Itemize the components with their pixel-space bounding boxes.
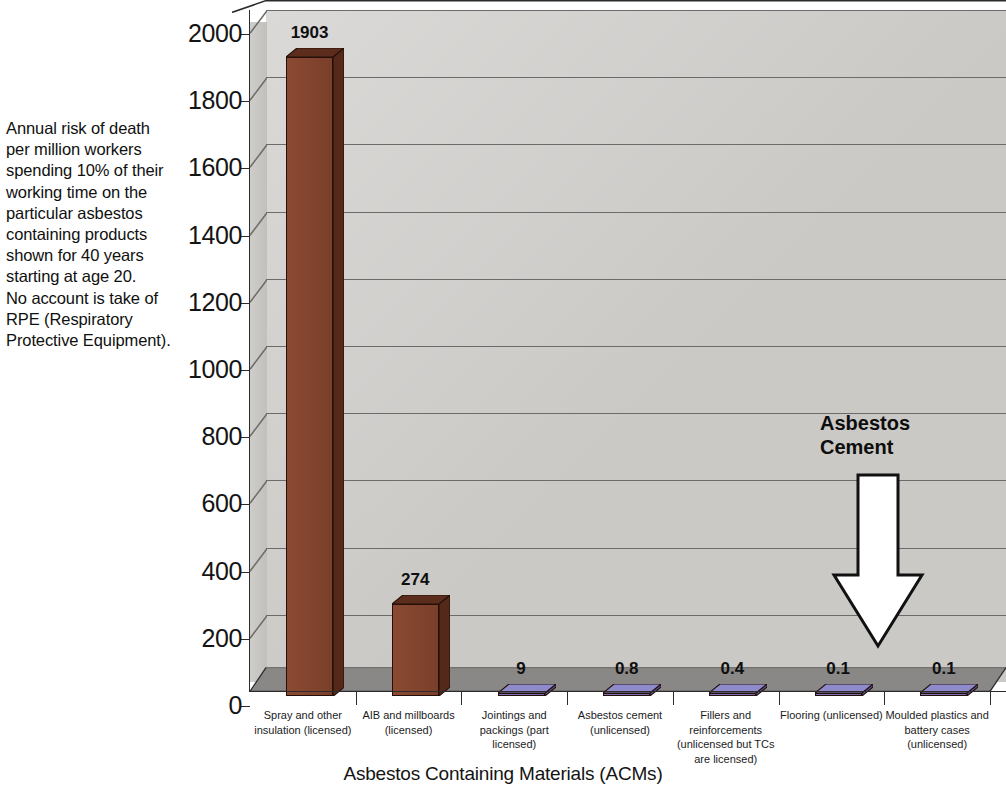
- y-axis-label: 1600: [188, 155, 242, 180]
- bar[interactable]: [392, 0, 439, 696]
- bar[interactable]: [603, 0, 650, 696]
- bar-front-face: [920, 693, 967, 696]
- y-axis-label: 0: [228, 693, 242, 718]
- bar-front-face: [392, 604, 439, 696]
- chart-3d-scene: 190327490.80.40.10.1 Asbestos Cement: [232, 0, 1006, 712]
- x-axis-tick: [779, 691, 780, 705]
- bar-value-label: 0.1: [899, 659, 989, 679]
- y-axis-label: 1800: [188, 88, 242, 113]
- bar-value-label: 0.4: [687, 659, 777, 679]
- bar-front-face: [498, 693, 545, 696]
- x-axis-category-label: AIB and millboards (licensed): [348, 708, 470, 737]
- bar[interactable]: [498, 0, 545, 696]
- bar[interactable]: [920, 0, 967, 696]
- x-axis-category-label: Spray and other insulation (licensed): [242, 708, 364, 737]
- bar-front-face: [709, 693, 756, 696]
- y-axis-label: 200: [201, 626, 242, 651]
- bar-value-label: 274: [370, 570, 460, 590]
- bar-value-label: 1903: [265, 23, 355, 43]
- x-axis-category-label: Moulded plastics and battery cases (unli…: [876, 708, 998, 752]
- y-axis-label: 1200: [188, 290, 242, 315]
- bar-front-face: [815, 693, 862, 696]
- y-axis-label: 600: [201, 491, 242, 516]
- bar-value-label: 9: [476, 659, 566, 679]
- bar[interactable]: [286, 0, 333, 696]
- x-axis-category-label: Jointings and packings (part licensed): [453, 708, 575, 752]
- down-arrow-icon: [830, 473, 926, 649]
- bar-top-face: [392, 595, 450, 604]
- x-axis-category-label: Fillers and reinforcements (unlicensed b…: [665, 708, 787, 766]
- y-axis-line: [249, 10, 250, 692]
- bar-side-face: [333, 48, 344, 696]
- bar-front-face: [286, 57, 333, 696]
- bar-value-label: 0.1: [793, 659, 883, 679]
- x-axis-tick: [990, 691, 991, 705]
- bar[interactable]: [709, 0, 756, 696]
- x-axis-line: [249, 691, 1006, 692]
- x-axis-tick: [356, 691, 357, 705]
- y-axis-label: 2000: [188, 21, 242, 46]
- x-axis-category-label: Flooring (unlicensed): [771, 708, 893, 723]
- callout-label: Asbestos Cement: [820, 411, 980, 459]
- description-note: Annual risk of death per million workers…: [6, 118, 211, 351]
- y-axis-label: 1400: [188, 223, 242, 248]
- bar-front-face: [603, 693, 650, 696]
- y-axis-label: 1000: [188, 357, 242, 382]
- bar-side-face: [439, 595, 450, 696]
- x-axis-tick: [461, 691, 462, 705]
- y-axis-label: 400: [201, 559, 242, 584]
- x-axis-tick: [673, 691, 674, 705]
- chart-left-side-wall: [250, 22, 267, 682]
- x-axis-tick: [567, 691, 568, 705]
- bar-top-face: [286, 48, 344, 57]
- x-axis-title: Asbestos Containing Materials (ACMs): [0, 763, 1006, 785]
- y-axis-label: 800: [201, 424, 242, 449]
- x-axis-tick: [884, 691, 885, 705]
- x-axis-category-label: Asbestos cement (unlicensed): [559, 708, 681, 737]
- bar-value-label: 0.8: [582, 659, 672, 679]
